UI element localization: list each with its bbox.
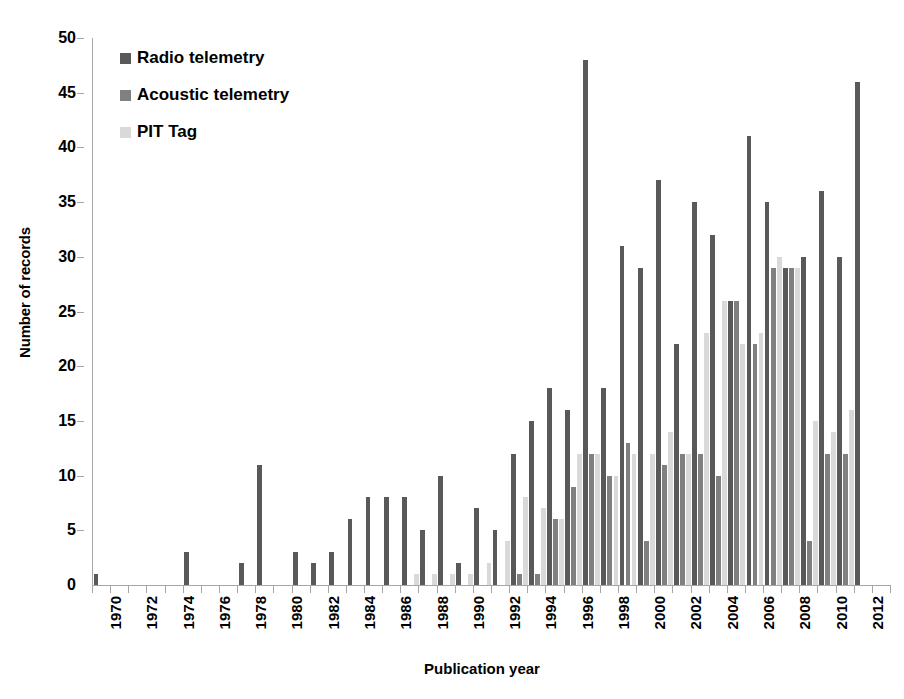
y-axis-title: Number of records (10, 0, 38, 585)
x-axis-tick-label: 1988 (434, 596, 451, 629)
bar (632, 454, 637, 585)
y-axis-tick-label: 30 (58, 248, 76, 266)
bar (589, 454, 594, 585)
bar-group (619, 38, 637, 585)
y-axis-tick-mark (77, 366, 84, 367)
bar (734, 301, 739, 585)
x-axis-tick-mark (890, 586, 891, 593)
bar-group (347, 38, 365, 585)
x-axis-tick-mark (672, 586, 673, 593)
x-axis-tick-label: 2000 (651, 596, 668, 629)
bar (722, 301, 727, 585)
y-axis-tick-label: 50 (58, 29, 76, 47)
bar-group (873, 38, 891, 585)
bar-group (637, 38, 655, 585)
x-axis-tick-mark (128, 586, 129, 593)
bar (414, 574, 419, 585)
x-axis-tick-label: 1982 (325, 596, 342, 629)
bar (541, 508, 546, 585)
x-axis-tick-label: 1978 (252, 596, 269, 629)
bar (704, 333, 709, 585)
bar (384, 497, 389, 585)
chart-figure: Number of records 05101520253035404550 1… (0, 0, 904, 699)
bar (716, 476, 721, 585)
y-axis-tick-mark (77, 38, 84, 39)
bar (680, 454, 685, 585)
bar (825, 454, 830, 585)
bar-group (800, 38, 818, 585)
bar (674, 344, 679, 585)
bar (257, 465, 262, 585)
bar-group (601, 38, 619, 585)
bar (456, 563, 461, 585)
bar (329, 552, 334, 585)
bar (402, 497, 407, 585)
bar-group (764, 38, 782, 585)
x-axis-tick-label: 1980 (288, 596, 305, 629)
bar (771, 268, 776, 585)
bar-group (673, 38, 691, 585)
bar (698, 454, 703, 585)
bar-group (383, 38, 401, 585)
x-axis-tick-mark (745, 586, 746, 593)
x-axis-tick-mark (165, 586, 166, 593)
bar (644, 541, 649, 585)
bar (710, 235, 715, 585)
bar (529, 421, 534, 585)
bar (837, 257, 842, 585)
bar-group (710, 38, 728, 585)
y-axis-tick-label: 20 (58, 357, 76, 375)
bar-group (692, 38, 710, 585)
x-axis-tick-mark (600, 586, 601, 593)
bar-group (818, 38, 836, 585)
chart-legend: Radio telemetryAcoustic telemetryPIT Tag (120, 48, 289, 159)
bar (468, 574, 473, 585)
y-axis-tick-label: 15 (58, 412, 76, 430)
bar (601, 388, 606, 585)
bar (523, 497, 528, 585)
bar (366, 497, 371, 585)
bar (607, 476, 612, 585)
bar-group (329, 38, 347, 585)
bar (843, 454, 848, 585)
x-axis-tick-labels: 1970197219741976197819801982198419861988… (92, 596, 890, 666)
bar (626, 443, 631, 585)
x-axis-tick-label: 1974 (180, 596, 197, 629)
x-axis-tick-mark (273, 586, 274, 593)
x-axis-tick-mark (781, 586, 782, 593)
bar (517, 574, 522, 585)
x-axis-tick-mark (618, 586, 619, 593)
y-axis-tick-mark (77, 202, 84, 203)
bar (656, 180, 661, 585)
x-axis-tick-label: 1986 (397, 596, 414, 629)
bar-group (855, 38, 873, 585)
y-axis-tick-label: 10 (58, 467, 76, 485)
bar (747, 136, 752, 585)
bar (553, 519, 558, 585)
bar (855, 82, 860, 585)
y-axis-tick-label: 35 (58, 193, 76, 211)
x-axis-tick-mark (564, 586, 565, 593)
x-axis-tick-mark (836, 586, 837, 593)
bar (740, 344, 745, 585)
bar (438, 476, 443, 585)
x-axis-tick-label: 1972 (143, 596, 160, 629)
y-axis-tick-mark (77, 530, 84, 531)
x-axis-tick-mark (473, 586, 474, 593)
bar (474, 508, 479, 585)
bar (450, 574, 455, 585)
x-axis-tick-mark (364, 586, 365, 593)
x-axis-tick-mark (418, 586, 419, 593)
bar-group (528, 38, 546, 585)
x-axis-tick-label: 1970 (107, 596, 124, 629)
x-axis-tick-mark (92, 586, 93, 593)
bar (783, 268, 788, 585)
y-axis-tick-mark (77, 93, 84, 94)
bar (487, 563, 492, 585)
bar (571, 487, 576, 585)
y-axis-title-text: Number of records (16, 227, 33, 358)
bar (728, 301, 733, 585)
x-axis-tick-mark (146, 586, 147, 593)
bar (94, 574, 99, 585)
x-axis-tick-label: 2008 (796, 596, 813, 629)
